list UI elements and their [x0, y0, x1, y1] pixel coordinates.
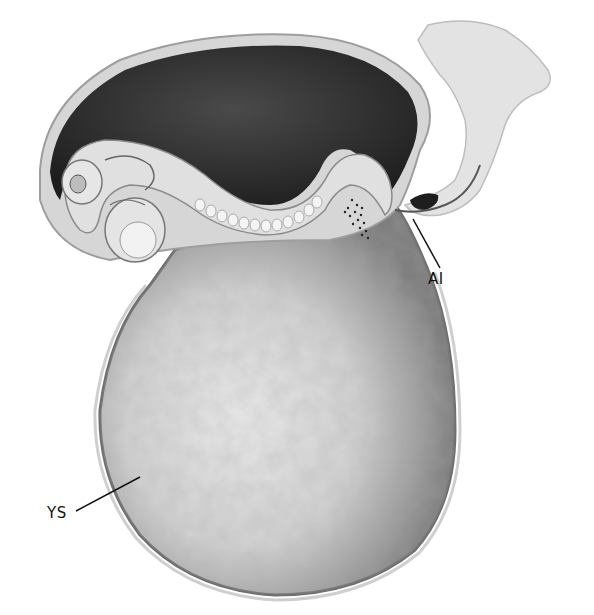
- embryo-diagram: [0, 0, 594, 615]
- yolk-sac-texture: [100, 205, 455, 595]
- label-allantois: AI: [428, 270, 444, 288]
- label-yolk-sac: YS: [47, 504, 67, 522]
- heart: [105, 198, 165, 262]
